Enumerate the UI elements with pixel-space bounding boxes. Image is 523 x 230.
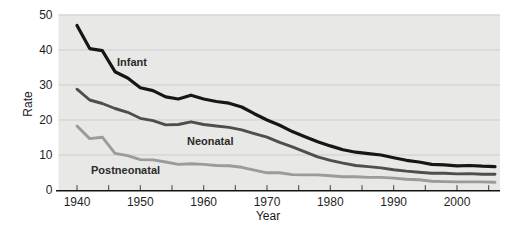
x-axis-tick-labels: 1940195019601970198019902000: [64, 195, 471, 209]
x-axis-title: Year: [256, 209, 280, 223]
x-tick-label-1960: 1960: [190, 195, 217, 209]
infant-series-label: Infant: [117, 56, 147, 68]
infant-mortality-line-chart: 01020304050 1940195019601970198019902000…: [0, 0, 523, 230]
y-tick-label-20: 20: [39, 113, 53, 127]
x-tick-label-2000: 2000: [444, 195, 471, 209]
y-tick-label-10: 10: [39, 148, 53, 162]
x-tick-label-1940: 1940: [64, 195, 91, 209]
x-tick-label-1970: 1970: [254, 195, 281, 209]
y-axis-title: Rate: [21, 91, 35, 117]
postneonatal-series-label: Postneonatal: [91, 164, 160, 176]
x-tick-label-1980: 1980: [317, 195, 344, 209]
x-tick-label-1950: 1950: [127, 195, 154, 209]
chart-canvas: 01020304050 1940195019601970198019902000…: [0, 0, 523, 230]
neonatal-series-label: Neonatal: [187, 135, 233, 147]
y-tick-label-30: 30: [39, 78, 53, 92]
y-axis-tick-labels: 01020304050: [39, 8, 53, 197]
y-tick-label-0: 0: [46, 183, 53, 197]
x-tick-label-1990: 1990: [380, 195, 407, 209]
y-tick-label-40: 40: [39, 43, 53, 57]
y-tick-label-50: 50: [39, 8, 53, 22]
